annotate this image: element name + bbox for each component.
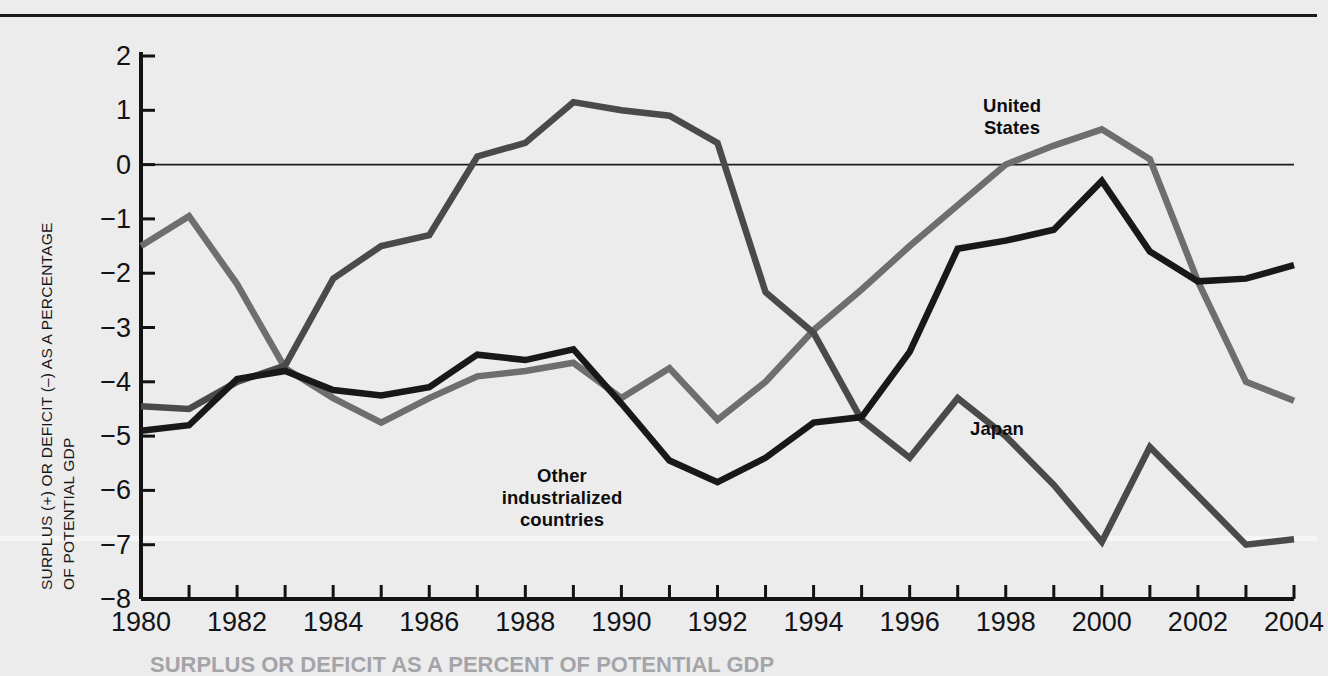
other-industrialized-countries-label: Otherindustrializedcountries (502, 465, 623, 532)
x-tick-label: 1982 (192, 607, 282, 638)
x-tick-label: 1992 (673, 607, 763, 638)
x-tick-label: 1998 (961, 607, 1051, 638)
x-tick-label: 1996 (865, 607, 955, 638)
y-tick-label: 2 (79, 41, 131, 72)
series-line-united-states (141, 129, 1294, 422)
annotation-line: countries (502, 509, 623, 531)
y-tick-label: −2 (79, 258, 131, 289)
y-tick-label: 1 (79, 95, 131, 126)
japan-label: Japan (970, 418, 1024, 440)
series-line-other-industrialized-countries (141, 181, 1294, 482)
annotation-line: industrialized (502, 487, 623, 509)
x-tick-label: 1994 (769, 607, 859, 638)
x-tick-label: 1988 (480, 607, 570, 638)
y-tick-label: −4 (79, 366, 131, 397)
annotation-line: Japan (970, 418, 1024, 440)
united-states-label: UnitedStates (983, 95, 1041, 139)
x-tick-label: 2000 (1057, 607, 1147, 638)
x-tick-label: 2002 (1153, 607, 1243, 638)
y-tick-label: −1 (79, 203, 131, 234)
x-tick-label: 1990 (576, 607, 666, 638)
y-tick-label: −5 (79, 421, 131, 452)
x-tick-label: 2004 (1249, 607, 1328, 638)
y-tick-label: 0 (79, 149, 131, 180)
x-tick-label: 1986 (384, 607, 474, 638)
figure-caption: SURPLUS OR DEFICIT AS A PERCENT OF POTEN… (150, 652, 774, 676)
y-tick-label: −3 (79, 312, 131, 343)
y-tick-label: −6 (79, 475, 131, 506)
y-tick-label: −7 (79, 529, 131, 560)
annotation-line: Other (502, 465, 623, 487)
annotation-line: States (983, 117, 1041, 139)
x-tick-label: 1980 (96, 607, 186, 638)
annotation-line: United (983, 95, 1041, 117)
series-line-japan (141, 102, 1294, 545)
x-tick-label: 1984 (288, 607, 378, 638)
